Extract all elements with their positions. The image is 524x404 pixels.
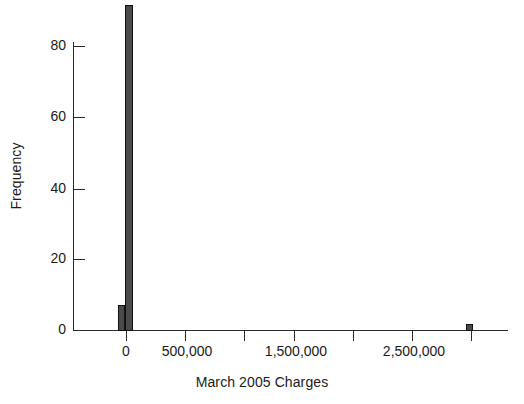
x-axis-line	[73, 330, 508, 331]
y-tick-0	[74, 330, 85, 331]
bar-negative-bin	[118, 305, 125, 331]
y-tick-label-20: 20	[6, 250, 66, 266]
x-tick-label-500000: 500,000	[162, 343, 213, 359]
x-tick-label-0: 0	[122, 343, 130, 359]
y-axis-line	[73, 42, 74, 331]
y-tick-80	[74, 46, 85, 47]
x-tick-500000	[185, 331, 186, 341]
y-tick-label-80: 80	[6, 37, 66, 53]
x-axis-label: March 2005 Charges	[0, 374, 524, 390]
x-tick-1000000	[244, 331, 245, 341]
x-tick-0	[126, 331, 127, 341]
x-tick-1500000	[294, 331, 295, 341]
bar-zero-bin	[125, 5, 133, 331]
x-tick-label-2500000: 2,500,000	[383, 343, 445, 359]
histogram-figure: 80 60 40 20 0 0 500,000 1,500,000 2,500,…	[0, 0, 524, 404]
y-tick-20	[74, 259, 85, 260]
y-axis-label: Frequency	[8, 116, 24, 236]
x-tick-2000000	[353, 331, 354, 341]
plot-area: 80 60 40 20 0 0 500,000 1,500,000 2,500,…	[0, 0, 524, 404]
y-tick-label-0: 0	[6, 321, 66, 337]
x-tick-2500000	[412, 331, 413, 341]
y-tick-60	[74, 117, 85, 118]
x-tick-label-1500000: 1,500,000	[265, 343, 327, 359]
y-tick-40	[74, 189, 85, 190]
x-tick-3000000	[471, 331, 472, 341]
bar-outlier-bin	[466, 324, 473, 331]
